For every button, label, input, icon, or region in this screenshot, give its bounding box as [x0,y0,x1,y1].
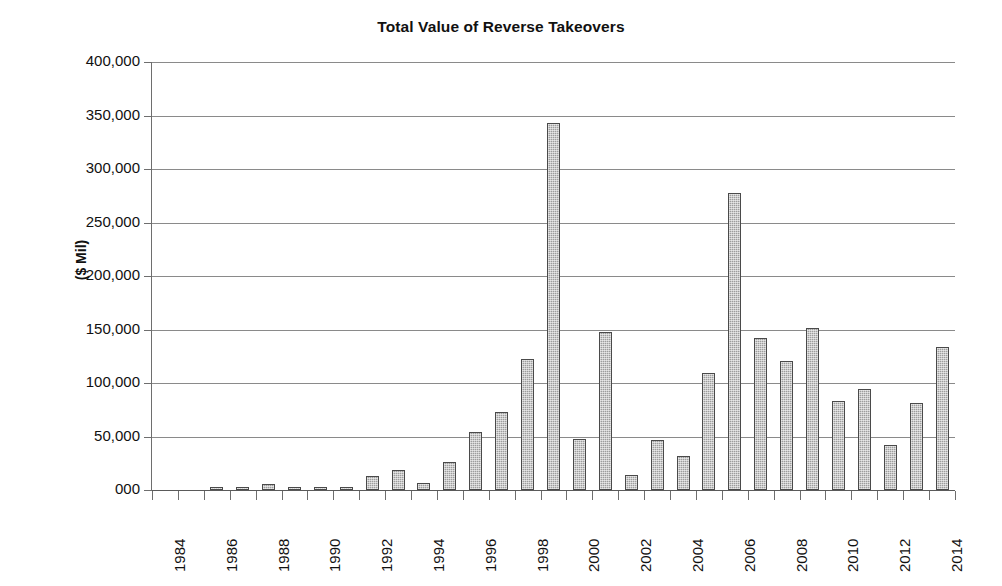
y-axis-tick [144,330,152,331]
x-axis-tick-label: 1990 [326,512,343,572]
x-axis-tick-label: 1996 [482,512,499,572]
x-axis-tick-label: 2008 [793,512,810,572]
x-axis-tick-labels: 1984198619881990199219941996199820002002… [0,0,1002,586]
chart-container: Total Value of Reverse Takeovers ($ Mil)… [0,0,1002,586]
x-axis-tick-label: 1986 [223,512,240,572]
y-axis-tick [144,116,152,117]
y-axis-tick [144,490,152,491]
y-axis-tick [144,62,152,63]
x-axis-tick-label: 2004 [689,512,706,572]
x-axis-tick-label: 2012 [896,512,913,572]
x-axis-tick-label: 2014 [948,512,965,572]
x-axis-tick-label: 1984 [171,512,188,572]
y-axis-tick [144,169,152,170]
y-axis-tick [144,223,152,224]
x-axis-tick-label: 1994 [430,512,447,572]
x-axis-tick-label: 2002 [637,512,654,572]
x-axis-tick-label: 2010 [844,512,861,572]
y-axis-tick [144,437,152,438]
x-axis-tick-label: 2006 [741,512,758,572]
x-axis-tick-label: 1988 [275,512,292,572]
x-axis-tick-label: 2000 [585,512,602,572]
y-axis-tick [144,276,152,277]
y-axis-tick [144,383,152,384]
x-axis-tick-label: 1998 [534,512,551,572]
x-axis-tick-label: 1992 [378,512,395,572]
